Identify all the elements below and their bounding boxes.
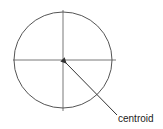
centroid-label: centroid <box>118 113 154 124</box>
centroid-diagram: centroid <box>0 0 163 129</box>
